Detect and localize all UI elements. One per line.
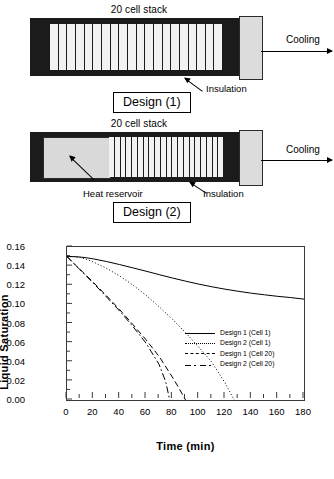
chart-plot-area xyxy=(66,246,305,401)
legend-item: Design 2 (Cell 20) xyxy=(185,359,303,369)
chart-x-tick-label: 180 xyxy=(283,406,323,417)
design-2-insulation-callout: Insulation xyxy=(203,188,244,199)
design-2-cooling-label: Cooling xyxy=(286,144,320,155)
chart-series-line xyxy=(67,257,304,300)
chart-series-line xyxy=(67,257,186,400)
stack-cell xyxy=(137,24,146,70)
stack-cell xyxy=(214,24,222,70)
design-2-stack-label: 20 cell stack xyxy=(0,118,306,129)
chart-series-svg xyxy=(67,247,304,400)
design-1-cooling-label: Cooling xyxy=(286,34,320,45)
design-1-stack-label: 20 cell stack xyxy=(0,4,306,15)
design-1-insulation-leader xyxy=(184,78,202,92)
chart-y-tick-label: 0.06 xyxy=(0,336,25,347)
legend-label: Design 2 (Cell 1) xyxy=(220,338,271,348)
chart-y-tick-label: 0.04 xyxy=(0,355,25,366)
legend-line-swatch xyxy=(185,360,215,368)
design-2-diagram: 20 cell stack Cooling Heat reservoir Ins… xyxy=(0,108,334,220)
legend-item: Design 2 (Cell 1) xyxy=(185,338,303,348)
chart-y-tick-label: 0.10 xyxy=(0,298,25,309)
legend-line-swatch xyxy=(185,329,215,337)
design-1-insulation-callout: Insulation xyxy=(206,83,247,94)
chart-y-tick-label: 0.12 xyxy=(0,279,25,290)
figure-root: 20 cell stack Cooling Insulation Design … xyxy=(0,0,334,479)
legend-label: Design 1 (Cell 1) xyxy=(220,328,271,338)
design-1-cooling-arrow xyxy=(261,51,332,52)
stack-cell xyxy=(67,24,76,70)
design-1-diagram: 20 cell stack Cooling Insulation Design … xyxy=(0,0,334,108)
stack-cell xyxy=(163,24,172,70)
stack-cell xyxy=(171,24,180,70)
chart-legend: Design 1 (Cell 1)Design 2 (Cell 1)Design… xyxy=(185,328,303,370)
chart-y-tick-label: 0.08 xyxy=(0,317,25,328)
legend-line-swatch xyxy=(185,340,215,348)
stack-cell xyxy=(154,24,163,70)
chart-series-line xyxy=(67,257,170,400)
chart-y-tick-label: 0.16 xyxy=(0,241,25,252)
chart-y-tick-label: 0.14 xyxy=(0,260,25,271)
legend-item: Design 1 (Cell 1) xyxy=(185,328,303,338)
stack-cell xyxy=(218,137,223,177)
stack-cell xyxy=(102,24,111,70)
design-2-cell-stack xyxy=(109,137,223,177)
design-1-cell-stack xyxy=(50,24,222,70)
stack-cell xyxy=(128,24,137,70)
stack-cell xyxy=(119,24,128,70)
legend-line-swatch xyxy=(185,350,215,358)
design-1-cooling-plate xyxy=(239,16,263,80)
stack-cell xyxy=(197,24,206,70)
chart-x-axis-label: Time (min) xyxy=(66,440,305,452)
stack-cell xyxy=(76,24,85,70)
stack-cell xyxy=(50,24,59,70)
chart-y-tick-label: 0.02 xyxy=(0,374,25,385)
legend-item: Design 1 (Cell 20) xyxy=(185,349,303,359)
legend-label: Design 2 (Cell 20) xyxy=(220,359,274,369)
liquid-saturation-chart: Liquid Saturation 0.000.020.040.060.080.… xyxy=(0,220,334,479)
stack-cell xyxy=(145,24,154,70)
design-2-cooling-arrow xyxy=(261,160,332,161)
stack-cell xyxy=(93,24,102,70)
stack-cell xyxy=(206,24,215,70)
design-2-cooling-plate xyxy=(239,130,263,186)
chart-y-tick-label: 0.00 xyxy=(0,394,25,405)
stack-cell xyxy=(111,24,120,70)
stack-cell xyxy=(180,24,189,70)
design-2-heat-reservoir xyxy=(43,137,111,179)
stack-cell xyxy=(85,24,94,70)
legend-label: Design 1 (Cell 20) xyxy=(220,349,274,359)
stack-cell xyxy=(59,24,68,70)
design-2-reservoir-callout: Heat reservoir xyxy=(83,188,143,199)
stack-cell xyxy=(189,24,198,70)
